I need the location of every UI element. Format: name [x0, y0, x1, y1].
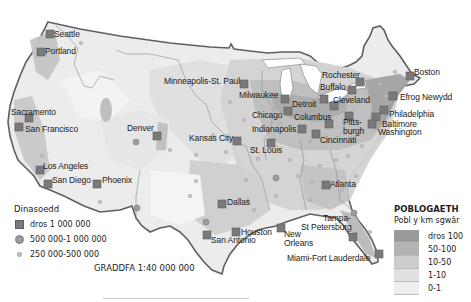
label-sacramento: Sacramento — [11, 108, 56, 117]
label-atlanta: Atlanta — [330, 180, 356, 189]
density-label: 0-1 — [428, 284, 441, 293]
density-row: 50-100 — [394, 243, 463, 256]
legend-row-small: 250 000-500 000 — [14, 247, 107, 262]
label-chicago: Chicago — [252, 111, 283, 120]
legend-label: 500 000-1 000 000 — [30, 235, 107, 244]
label-miami: Miami-Fort Lauderdale — [287, 254, 370, 263]
city-legend-title: Dinasoedd — [14, 204, 107, 214]
density-swatch — [394, 243, 419, 256]
label-rochester: Rochester — [322, 71, 360, 80]
city-size-legend: Dinasoedd dros 1 000 000 500 000-1 000 0… — [14, 204, 107, 262]
label-st-louis: St. Louis — [250, 146, 282, 155]
square-marker-icon — [15, 220, 24, 229]
legend-label: 250 000-500 000 — [30, 250, 99, 259]
label-philadelphia: Philadelphia — [389, 110, 434, 119]
density-swatch — [394, 282, 419, 295]
density-label: 1-10 — [428, 271, 446, 280]
density-label: 10-50 — [428, 258, 451, 267]
label-san-francisco: San Francisco — [25, 125, 78, 134]
legend-row-medium: 500 000-1 000 000 — [14, 232, 107, 247]
label-phoenix: Phoenix — [102, 176, 132, 185]
density-row: 0-1 — [394, 282, 463, 295]
legend-row-large: dros 1 000 000 — [14, 217, 107, 232]
label-denver: Denver — [127, 124, 154, 133]
density-row: 1-10 — [394, 269, 463, 282]
density-label: 50-100 — [428, 245, 456, 254]
population-density-legend: POBLOGAETH Pobl y km sgwâr dros 100 50-1… — [394, 204, 463, 295]
label-minneapolis: Minneapolis-St. Paul — [164, 77, 240, 86]
label-cincinnati: Cincinnati — [320, 136, 356, 145]
small-circle-marker-icon — [17, 252, 22, 257]
label-new-orleans-2: Orleans — [284, 239, 313, 248]
map-scale: GRADDFA 1:40 000 000 — [94, 263, 195, 273]
label-efrog-newydd: Efrog Newydd — [400, 93, 452, 102]
label-washington: Washington — [378, 128, 422, 137]
density-swatch — [394, 230, 419, 243]
circle-marker-icon — [15, 235, 24, 244]
label-columbus: Columbus — [294, 113, 331, 122]
population-legend-subtitle: Pobl y km sgwâr — [394, 216, 463, 225]
density-swatch — [394, 269, 419, 282]
label-portland: Portland — [45, 47, 76, 56]
density-label: dros 100 — [428, 232, 463, 241]
density-row: dros 100 — [394, 230, 463, 243]
label-san-diego: San Diego — [52, 176, 91, 185]
label-los-angeles: Los Angeles — [43, 162, 88, 171]
label-tampa-2: St Petersburg — [301, 223, 352, 232]
label-cleveland: Cleveland — [333, 96, 370, 105]
density-row: 10-50 — [394, 256, 463, 269]
label-dallas: Dallas — [227, 198, 250, 207]
label-indianapolis: Indianapolis — [252, 125, 296, 134]
label-san-antonio: San Antonio — [211, 236, 256, 245]
label-pittsburgh-2: burgh — [343, 127, 364, 136]
legend-label: dros 1 000 000 — [30, 220, 91, 229]
label-buffalo: Buffalo — [320, 83, 346, 92]
label-kansas-city: Kansas City — [189, 134, 233, 143]
population-legend-title: POBLOGAETH — [394, 204, 463, 214]
label-seattle: Seattle — [54, 30, 80, 39]
density-swatch — [394, 256, 419, 269]
label-detroit: Detroit — [292, 100, 316, 109]
label-boston: Boston — [414, 68, 440, 77]
label-milwaukee: Milwaukee — [239, 91, 278, 100]
divider-line — [103, 298, 249, 299]
